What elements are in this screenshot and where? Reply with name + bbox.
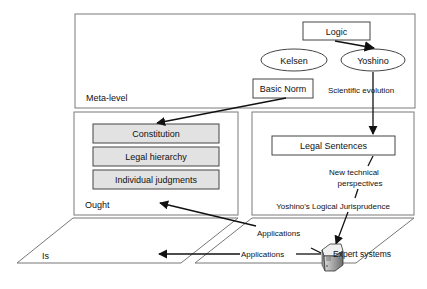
expert-systems-label: Expert systems [333, 249, 391, 259]
constitution-label: Constitution [132, 129, 180, 139]
meta-level-label: Meta-level [86, 93, 128, 103]
scientific-evolution-label: Scientific evolution [328, 86, 394, 95]
yoshino-label: Yoshino [357, 56, 389, 66]
applications-ought-label: Applications [257, 229, 300, 238]
logic-node: Logic [303, 22, 370, 40]
ought-label: Ought [85, 200, 110, 210]
applications-is-label: Applications [241, 250, 284, 259]
logic-label: Logic [326, 27, 348, 37]
basic-norm-label: Basic Norm [260, 84, 307, 94]
new-technical-label-line1: New technical [329, 168, 379, 177]
individual-judgments-node: Individual judgments [93, 170, 219, 189]
logical-jurisprudence-label: Yoshino's Logical Jurisprudence [276, 202, 390, 211]
basic-norm-node: Basic Norm [253, 79, 313, 98]
legal-sentences-node: Legal Sentences [272, 136, 395, 155]
yoshino-node: Yoshino [341, 49, 405, 71]
kelsen-label: Kelsen [280, 56, 308, 66]
kelsen-node: Kelsen [261, 49, 327, 71]
constitution-node: Constitution [93, 124, 219, 143]
logical-jurisprudence-panel [252, 112, 414, 215]
legal-hierarchy-label: Legal hierarchy [125, 152, 187, 162]
new-technical-label-line2: perspectives [338, 179, 383, 188]
is-label: Is [42, 251, 50, 261]
legal-sentences-label: Legal Sentences [300, 141, 368, 151]
individual-judgments-label: Individual judgments [115, 175, 198, 185]
diagram-canvas: Meta-level Ought Is Logic Kelsen Yoshino… [0, 0, 427, 289]
legal-hierarchy-node: Legal hierarchy [93, 147, 219, 166]
